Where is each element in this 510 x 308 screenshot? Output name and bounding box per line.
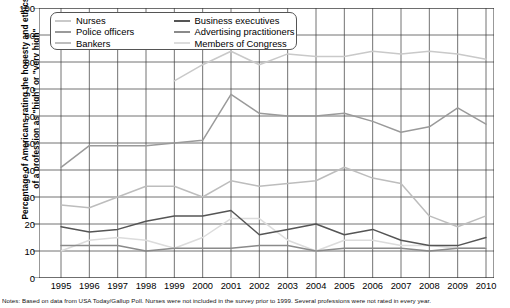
- y-tick-label: 60: [13, 111, 35, 122]
- y-axis-ticks: 0102030405060708090100: [9, 8, 35, 278]
- legend-item[interactable]: Nurses: [55, 15, 174, 26]
- legend-label: Police officers: [76, 26, 134, 37]
- legend-swatch-icon: [55, 20, 71, 22]
- y-tick-marks: [33, 8, 39, 278]
- x-tick-label: 2010: [469, 281, 503, 291]
- x-axis-ticks: 1995199619971998199920002001200220032004…: [39, 281, 494, 295]
- legend-row: NursesBusiness executives: [55, 15, 292, 26]
- y-tick-label: 100: [13, 3, 35, 14]
- legend-label: Bankers: [76, 38, 110, 49]
- chart-legend: NursesBusiness executivesPolice officers…: [50, 12, 297, 50]
- y-tick-label: 20: [13, 219, 35, 230]
- legend-item[interactable]: Bankers: [55, 38, 174, 49]
- y-tick-label: 70: [13, 84, 35, 95]
- legend-item[interactable]: Business executives: [174, 15, 293, 26]
- legend-label: Business executives: [195, 15, 280, 26]
- y-tick-label: 80: [13, 57, 35, 68]
- chart-footnote: Notes: Based on data from USA Today/Gall…: [2, 297, 510, 308]
- legend-label: Members of Congress: [195, 38, 287, 49]
- legend-swatch-icon: [55, 31, 71, 33]
- legend-item[interactable]: Advertising practitioners: [174, 26, 293, 37]
- legend-swatch-icon: [174, 42, 190, 44]
- y-tick-label: 40: [13, 165, 35, 176]
- y-tick-label: 30: [13, 192, 35, 203]
- y-tick-label: 10: [13, 246, 35, 257]
- y-tick-label: 50: [13, 138, 35, 149]
- legend-row: Police officersAdvertising practitioners: [55, 26, 292, 37]
- legend-row: BankersMembers of Congress: [55, 38, 292, 49]
- chart-figure: Percentage of Americans rating the hones…: [0, 0, 510, 308]
- legend-item[interactable]: Members of Congress: [174, 38, 293, 49]
- legend-item[interactable]: Police officers: [55, 26, 174, 37]
- y-tick-label: 0: [13, 273, 35, 284]
- legend-swatch-icon: [55, 42, 71, 44]
- y-tick-label: 90: [13, 30, 35, 41]
- legend-label: Advertising practitioners: [195, 26, 295, 37]
- legend-swatch-icon: [174, 31, 190, 33]
- legend-label: Nurses: [76, 15, 106, 26]
- legend-swatch-icon: [174, 20, 190, 22]
